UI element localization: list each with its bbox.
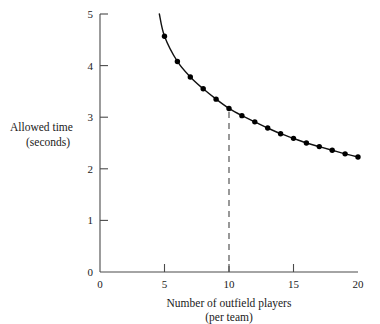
data-point xyxy=(330,148,335,153)
data-point xyxy=(291,136,296,141)
data-point xyxy=(226,106,231,111)
y-tick-label-3: 3 xyxy=(88,111,94,123)
data-point xyxy=(304,140,309,145)
data-point xyxy=(239,113,244,118)
x-tick-label-20: 20 xyxy=(353,278,365,290)
data-point xyxy=(188,74,193,79)
y-tick-label-1: 1 xyxy=(88,214,94,226)
x-tick-label-0: 0 xyxy=(97,278,103,290)
y-tick-label-0: 0 xyxy=(88,266,94,278)
data-point xyxy=(355,154,360,159)
y-axis-label-line2: (seconds) xyxy=(26,136,70,149)
y-tick-label-2: 2 xyxy=(88,163,94,175)
x-axis-label-line1: Number of outfield players xyxy=(167,297,292,310)
x-tick-label-10: 10 xyxy=(224,278,236,290)
x-tick-label-5: 5 xyxy=(162,278,168,290)
x-tick-label-15: 15 xyxy=(288,278,300,290)
data-point xyxy=(278,131,283,136)
data-point xyxy=(317,144,322,149)
x-axis-label-line2: (per team) xyxy=(205,311,253,324)
y-tick-label-4: 4 xyxy=(88,60,94,72)
chart-figure: 5 4 3 2 1 0 0 5 10 15 20 Allowed time (s… xyxy=(0,0,380,324)
data-point xyxy=(265,125,270,130)
chart-background xyxy=(0,0,380,324)
data-point xyxy=(342,151,347,156)
data-point xyxy=(175,59,180,64)
data-point xyxy=(252,119,257,124)
data-point xyxy=(162,33,167,38)
y-axis-label-line1: Allowed time xyxy=(10,121,73,133)
data-point xyxy=(201,86,206,91)
data-point xyxy=(213,96,218,101)
y-tick-label-5: 5 xyxy=(88,8,94,20)
